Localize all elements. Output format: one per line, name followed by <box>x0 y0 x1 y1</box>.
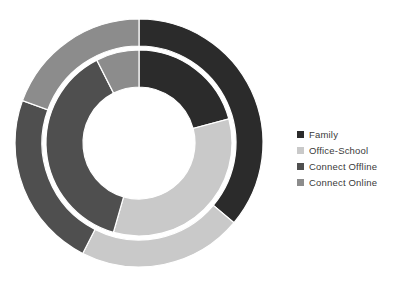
donut-chart-figure: FamilyOffice-SchoolConnect OfflineConnec… <box>0 0 396 288</box>
chart-legend: FamilyOffice-SchoolConnect OfflineConnec… <box>297 126 393 190</box>
legend-swatch-office-school <box>297 147 304 154</box>
legend-item[interactable]: Connect Offline <box>297 158 393 174</box>
legend-item[interactable]: Connect Online <box>297 174 393 190</box>
legend-swatch-family <box>297 131 304 138</box>
legend-item-label: Connect Online <box>309 177 377 188</box>
legend-item[interactable]: Office-School <box>297 142 393 158</box>
legend-item-label: Family <box>309 129 338 140</box>
legend-swatch-connect-offline <box>297 163 304 170</box>
legend-item-label: Connect Offline <box>309 161 377 172</box>
inner-ring <box>46 50 232 236</box>
legend-swatch-connect-online <box>297 179 304 186</box>
legend-item-label: Office-School <box>309 145 368 156</box>
legend-item[interactable]: Family <box>297 126 393 142</box>
